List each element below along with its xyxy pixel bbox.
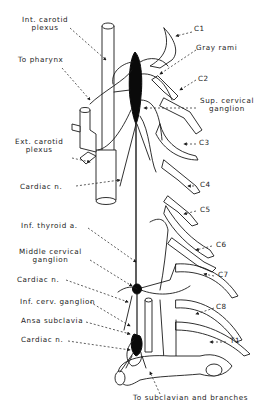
label-t1: T1 xyxy=(230,337,240,345)
label-cardiac-n-middle: Cardiac n. xyxy=(17,276,59,284)
inferior-cervical-ganglion xyxy=(131,334,142,356)
label-middle-cervical-ganglion-line2: ganglion xyxy=(19,256,82,264)
label-c2: C2 xyxy=(198,75,209,83)
label-c7: C7 xyxy=(218,271,229,279)
label-int-carotid-plexus-line2: plexus xyxy=(22,24,68,32)
label-sup-cervical-ganglion: Sup. cervical ganglion xyxy=(200,97,254,113)
sympathetic-trunk-diagram: Int. carotid plexus To pharynx Ext. caro… xyxy=(0,0,272,410)
superior-cervical-ganglion xyxy=(129,52,142,124)
label-ext-carotid-plexus: Ext. carotid plexus xyxy=(15,138,63,154)
label-gray-rami: Gray rami xyxy=(196,44,237,52)
label-ansa-subclavia: Ansa subclavia xyxy=(21,317,83,325)
label-c6: C6 xyxy=(216,241,227,249)
label-to-pharynx: To pharynx xyxy=(18,56,63,64)
label-ext-carotid-plexus-line2: plexus xyxy=(15,146,63,154)
label-sup-cervical-ganglion-line2: ganglion xyxy=(200,105,254,113)
label-inf-cerv-ganglion: Inf. cerv. ganglion xyxy=(20,298,95,306)
label-cardiac-n-lower: Cardiac n. xyxy=(21,336,63,344)
subclavian-artery xyxy=(115,355,232,386)
label-c5: C5 xyxy=(200,206,211,214)
common-carotid-artery xyxy=(96,150,116,205)
label-middle-cervical-ganglion: Middle cervical ganglion xyxy=(19,248,82,264)
label-inf-thyroid-a: Inf. thyroid a. xyxy=(21,222,78,230)
label-to-subclavian: To subclavian and branches xyxy=(133,394,248,402)
label-int-carotid-plexus: Int. carotid plexus xyxy=(22,16,68,32)
label-c1: C1 xyxy=(194,25,205,33)
label-c4: C4 xyxy=(200,181,211,189)
label-c3: C3 xyxy=(199,139,210,147)
external-carotid-artery xyxy=(72,108,96,165)
label-cardiac-n-upper: Cardiac n. xyxy=(20,183,62,191)
label-c8: C8 xyxy=(216,303,227,311)
internal-carotid-artery xyxy=(102,23,114,158)
